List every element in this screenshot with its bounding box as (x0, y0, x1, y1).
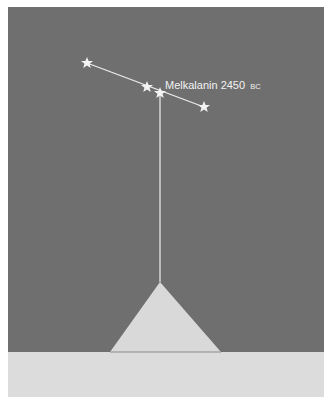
pyramid-star-alignment-diagram: Melkalanin 2450 BC (0, 0, 332, 404)
ground (8, 352, 324, 397)
star-label: Melkalanin 2450 BC (165, 79, 261, 91)
star-label-name: Melkalanin 2450 (165, 79, 245, 91)
star-label-era: BC (250, 82, 261, 91)
